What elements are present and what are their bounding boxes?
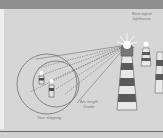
label-arc-divide: Arc length Divide — [80, 100, 98, 109]
diagram-figure: Best signal lighthouse Arc length Divide… — [0, 0, 163, 138]
bottom-band — [0, 132, 163, 138]
label-your-shipping: Your shipping — [37, 116, 61, 121]
edge-lighthouse — [155, 52, 163, 93]
label-line: Divide — [80, 105, 98, 110]
buoy-1 — [39, 71, 44, 84]
label-best-signal: Best signal lighthouse — [132, 12, 152, 21]
main-lighthouse — [117, 33, 137, 110]
label-line: lighthouse — [132, 17, 152, 22]
buoy-2 — [49, 79, 54, 97]
buoy-light-icon — [50, 79, 54, 83]
secondary-beacon-icon — [144, 42, 149, 47]
buoy-light-icon — [40, 71, 44, 75]
secondary-lighthouse — [141, 42, 151, 67]
beacon-rays — [117, 33, 137, 45]
